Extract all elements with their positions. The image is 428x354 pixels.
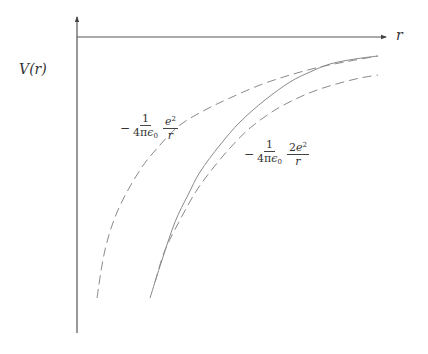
minus-sign: − [244,147,254,161]
y-axis-label-arg: (r) [29,61,47,77]
potential-plot [0,0,428,354]
curve-actual-potential-solid [150,56,378,298]
curve-e2-over-r-dashed [97,56,378,298]
fraction-e2-over-r: e2 r [163,113,178,142]
annotation-e2-over-r: − 1 4πϵ0 e2 r [120,112,178,143]
x-axis-label: r [396,27,403,43]
annotation-2e2-over-r: − 1 4πϵ0 2e2 r [244,138,309,169]
fraction-coulomb-constant: 1 4πϵ0 [255,138,284,169]
fraction-2e2-over-r: 2e2 r [287,139,309,168]
y-axis-label-main: V [19,61,29,77]
minus-sign: − [120,121,130,135]
fraction-coulomb-constant: 1 4πϵ0 [131,112,160,143]
y-axis-label: V(r) [19,61,47,77]
curve-2e2-over-r-dashed [155,75,378,282]
